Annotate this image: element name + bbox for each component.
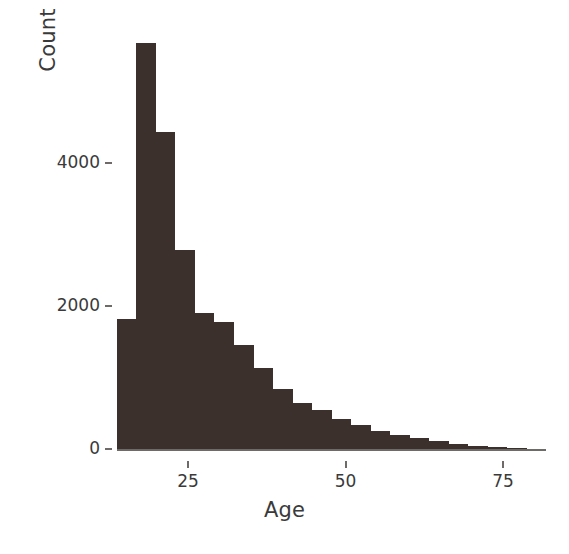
y-tick-label: 0	[38, 438, 100, 458]
y-tick-label: 4000	[38, 152, 100, 172]
histogram-bar	[390, 435, 410, 449]
histogram-bar	[371, 431, 391, 449]
histogram-bar	[234, 345, 254, 449]
x-axis-line	[117, 449, 547, 451]
y-tick-mark	[105, 162, 112, 164]
histogram-bar	[410, 438, 430, 449]
x-tick-mark	[502, 461, 504, 468]
histogram-bar	[429, 441, 449, 449]
histogram-chart: 020004000 255075 Count Age	[0, 0, 569, 554]
histogram-bar	[273, 389, 293, 449]
histogram-bar	[156, 132, 176, 449]
histogram-bar	[136, 43, 156, 449]
histogram-bar	[293, 403, 313, 449]
histogram-bar	[117, 319, 137, 449]
histogram-bar	[175, 250, 195, 449]
y-tick-label: 2000	[38, 295, 100, 315]
y-tick-mark	[105, 305, 112, 307]
y-tick-mark	[105, 448, 112, 450]
histogram-bar	[351, 425, 371, 449]
histogram-bar	[332, 419, 352, 449]
x-tick-label: 75	[481, 471, 525, 491]
histogram-bar	[214, 322, 234, 449]
y-axis-title: Count	[36, 0, 66, 130]
histogram-bar	[195, 313, 215, 449]
histogram-bar	[312, 410, 332, 449]
y-axis-title-wrap: Count	[14, 130, 44, 310]
x-axis-title: Age	[0, 498, 569, 522]
x-tick-mark	[187, 461, 189, 468]
histogram-bar	[254, 368, 274, 449]
x-tick-label: 50	[324, 471, 368, 491]
x-tick-mark	[345, 461, 347, 468]
x-tick-label: 25	[166, 471, 210, 491]
